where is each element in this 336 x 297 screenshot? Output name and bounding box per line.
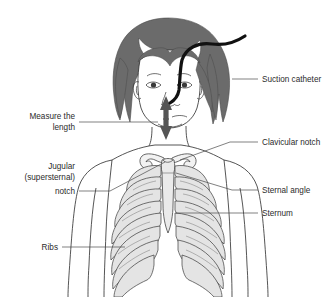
label-clavicular-notch: Clavicular notch [262, 138, 321, 147]
left-pupil [151, 82, 156, 87]
right-pupil [182, 82, 187, 87]
neck-outline [149, 127, 152, 146]
label-jugular-notch-line3: notch [55, 187, 75, 196]
label-sternal-angle: Sternal angle [262, 186, 311, 195]
label-jugular-notch-line1: Jugular [48, 162, 75, 171]
label-measure-the-length-line1: Measure the [29, 112, 75, 121]
anatomy-illustration: Suction catheter Clavicular notch Sterna… [0, 0, 336, 297]
labels-left: Measure the length Jugular (supersternal… [24, 112, 75, 252]
right-arm-outline [224, 160, 268, 297]
sternum [161, 159, 175, 234]
label-suction-catheter: Suction catheter [262, 75, 321, 84]
label-measure-the-length-line2: length [53, 123, 76, 132]
anatomy-figure: Suction catheter Clavicular notch Sterna… [0, 0, 336, 297]
shoulder-line [112, 145, 224, 160]
neck-outline-right [186, 126, 189, 146]
ribs-left [111, 165, 161, 297]
ribcage-group [111, 154, 225, 297]
label-sternum: Sternum [262, 209, 293, 218]
labels-right: Suction catheter Clavicular notch Sterna… [262, 75, 321, 218]
label-ribs: Ribs [42, 243, 58, 252]
ribs-right [175, 165, 225, 297]
face-group [133, 48, 205, 128]
label-jugular-notch-line2: (supersternal) [24, 173, 75, 182]
